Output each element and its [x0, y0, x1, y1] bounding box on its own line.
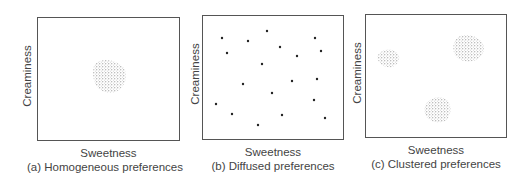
plot-marks — [0, 0, 525, 187]
scatter-points-diffused — [215, 30, 326, 126]
cluster-homogeneous — [93, 60, 126, 93]
clusters-clustered — [378, 35, 484, 122]
